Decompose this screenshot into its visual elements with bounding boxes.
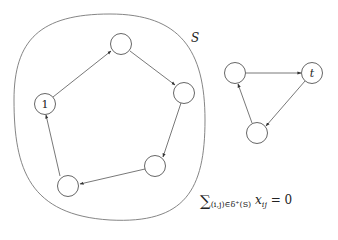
- formula-rhs: = 0: [267, 193, 292, 207]
- edge-top-right: [130, 51, 175, 85]
- edge-right-bottomright: [163, 103, 181, 157]
- node-1-label: 1: [42, 98, 49, 111]
- node-bottom-left: [58, 176, 79, 197]
- sum-symbol: ∑: [200, 192, 211, 210]
- node-outside-bottom: [247, 123, 268, 144]
- node-top: [111, 34, 132, 55]
- set-s-label: S: [191, 31, 199, 45]
- edge-1-top: [53, 51, 111, 97]
- edge-bottomright-bottomleft: [80, 169, 145, 184]
- edge-t-m3: [266, 81, 305, 126]
- node-outside-left: [225, 63, 246, 84]
- node-right: [174, 83, 195, 104]
- sum-subscript: (i,j)∈δ⁺(S): [211, 200, 252, 209]
- formula-variable: x: [255, 193, 262, 207]
- node-t-label: t: [310, 67, 315, 80]
- edge-bottomleft-1: [46, 115, 60, 176]
- edge-m3-m1: [238, 84, 252, 123]
- cut-constraint-formula: ∑(i,j)∈δ⁺(S) xij = 0: [200, 192, 292, 210]
- node-bottom-right: [145, 156, 166, 177]
